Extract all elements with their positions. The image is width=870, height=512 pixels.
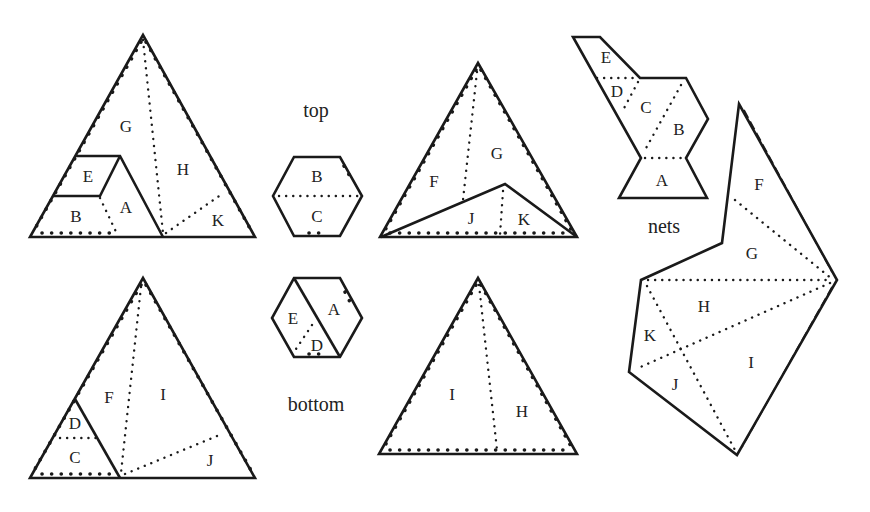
caption-bottom: bottom <box>288 393 345 415</box>
piece-label: D <box>311 336 323 355</box>
piece-label: B <box>311 167 322 186</box>
piece-label: F <box>429 172 438 191</box>
piece-label: C <box>69 448 80 467</box>
piece-label: J <box>672 375 679 394</box>
net-small: E D C B A nets <box>573 37 708 237</box>
piece-label: H <box>516 402 528 421</box>
piece-label: B <box>70 207 81 226</box>
triangle-top-left: G H E A B K <box>30 35 255 237</box>
triangle-bottom-left: F I D C J <box>30 278 255 478</box>
hexagon-top: top B C <box>273 99 362 236</box>
dissection-figure: G H E A B K top B C G F J K E D <box>0 0 870 512</box>
hexagon-bottom: E A D bottom <box>272 278 362 415</box>
piece-label: A <box>656 171 669 190</box>
piece-label: H <box>177 160 189 179</box>
piece-label: A <box>120 198 133 217</box>
piece-label: D <box>611 82 623 101</box>
piece-label: G <box>120 117 132 136</box>
piece-label: I <box>449 385 455 404</box>
piece-label: C <box>640 98 651 117</box>
triangle-top-middle: G F J K <box>380 63 577 237</box>
piece-label: I <box>160 385 166 404</box>
piece-label: A <box>328 300 341 319</box>
piece-label: G <box>746 244 758 263</box>
piece-label: F <box>104 388 113 407</box>
piece-label: K <box>212 211 225 230</box>
figure-canvas: G H E A B K top B C G F J K E D <box>0 0 870 512</box>
piece-label: K <box>644 326 657 345</box>
piece-label: E <box>288 309 298 328</box>
piece-label: I <box>748 353 754 372</box>
piece-label: F <box>754 175 763 194</box>
net-large: F G H K J I <box>629 104 837 455</box>
triangle-bottom-middle: I H <box>379 278 577 454</box>
piece-label: E <box>601 48 611 67</box>
piece-label: D <box>69 414 81 433</box>
piece-label: C <box>311 207 322 226</box>
piece-label: B <box>673 120 684 139</box>
piece-label: J <box>468 209 475 228</box>
piece-label: G <box>491 144 503 163</box>
caption-top: top <box>303 99 329 122</box>
caption-nets: nets <box>648 215 680 237</box>
piece-label: E <box>83 167 93 186</box>
piece-label: K <box>518 210 531 229</box>
piece-label: H <box>698 297 710 316</box>
piece-label: J <box>207 451 214 470</box>
